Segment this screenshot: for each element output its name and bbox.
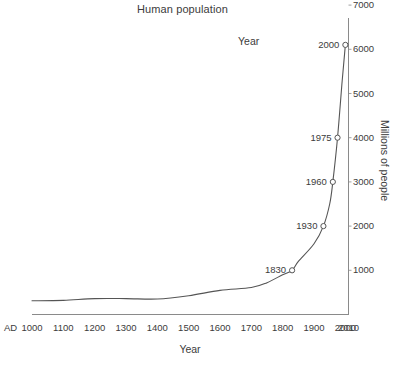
human-population-chart: Human population Year Millions of people… [0, 0, 405, 365]
population-curve [32, 45, 345, 301]
axis-lines [32, 18, 349, 315]
x-tick-label-1700: 1700 [236, 322, 266, 333]
data-point-label-1930: 1930 [257, 220, 317, 231]
y-tick-label-7000: 7000 [353, 0, 374, 10]
data-point-label-2000: 2000 [279, 39, 339, 50]
y-tick-label-6000: 6000 [353, 43, 374, 54]
data-point-markers [289, 42, 347, 273]
data-point-label-1830: 1830 [226, 264, 286, 275]
x-tick-label-1900: 1900 [299, 322, 329, 333]
x-tick-label-1000: 1000 [17, 322, 47, 333]
data-point-label-1960: 1960 [267, 176, 327, 187]
x-tick-label-1500: 1500 [174, 322, 204, 333]
data-point-marker-1830 [289, 268, 294, 273]
y-tick-label-2000: 2000 [353, 220, 374, 231]
x-tick-label-1800: 1800 [268, 322, 298, 333]
x-tick-label-1400: 1400 [142, 322, 172, 333]
x-tick-label-1600: 1600 [205, 322, 235, 333]
y-tick-label-3000: 3000 [353, 176, 374, 187]
data-point-label-1975: 1975 [272, 132, 332, 143]
y-tick-label-1000: 1000 [353, 264, 374, 275]
plot-area [0, 0, 405, 365]
data-point-marker-1975 [335, 135, 340, 140]
data-point-marker-1960 [330, 179, 335, 184]
data-point-marker-1930 [321, 224, 326, 229]
x-tick-label-2010: 2010 [334, 322, 364, 333]
x-tick-label-1200: 1200 [80, 322, 110, 333]
data-point-marker-2000 [343, 42, 348, 47]
y-tick-label-5000: 5000 [353, 88, 374, 99]
y-tick-label-4000: 4000 [353, 132, 374, 143]
x-tick-label-1300: 1300 [111, 322, 141, 333]
x-tick-label-1100: 1100 [48, 322, 78, 333]
